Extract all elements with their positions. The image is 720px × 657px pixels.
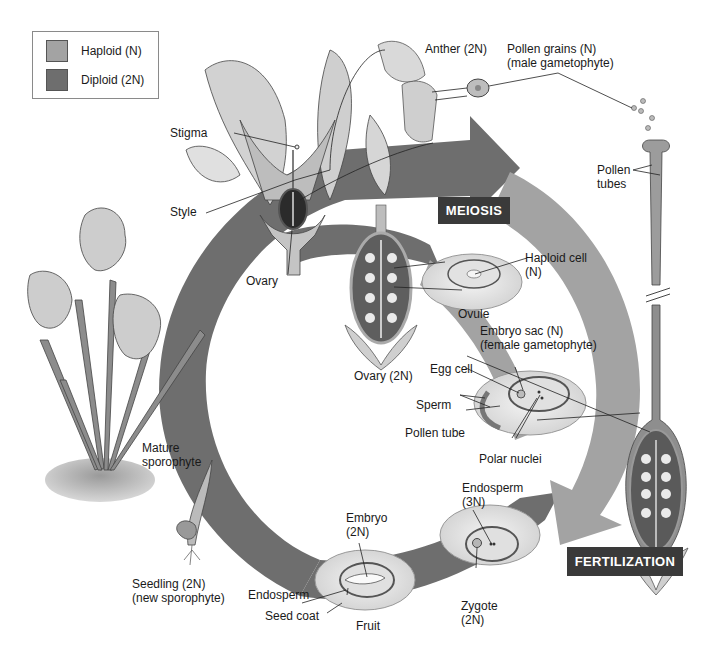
legend-item-haploid: Haploid (N) — [46, 40, 142, 62]
label-embryo-line2: (2N) — [346, 525, 387, 539]
label-embryo-sac: Embryo sac (N) (female gametophyte) — [480, 324, 597, 352]
legend-label-diploid: Diploid (2N) — [81, 73, 144, 87]
label-zygote: Zygote (2N) — [461, 599, 498, 627]
label-anther: Anther (2N) — [425, 42, 487, 56]
haploid-swatch — [46, 40, 68, 62]
label-seed-coat: Seed coat — [265, 609, 319, 623]
label-embryo-sac-line1: Embryo sac (N) — [480, 324, 597, 338]
label-mature-sporophyte-line1: Mature — [142, 441, 201, 455]
legend-label-haploid: Haploid (N) — [81, 44, 142, 58]
label-pollen-grains-line1: Pollen grains (N) — [507, 42, 614, 56]
label-endosperm-3n-line1: Endosperm — [462, 481, 523, 495]
diploid-swatch — [46, 69, 68, 91]
label-stigma: Stigma — [170, 126, 207, 140]
legend-item-diploid: Diploid (2N) — [46, 69, 144, 91]
label-haploid-cell-line1: Haploid cell — [525, 251, 587, 265]
label-zygote-line1: Zygote — [461, 599, 498, 613]
life-cycle-diagram: Haploid (N) Diploid (2N) MEIOSIS FERTILI… — [0, 0, 720, 657]
label-pollen-grains: Pollen grains (N) (male gametophyte) — [507, 42, 614, 70]
label-fruit: Fruit — [356, 619, 380, 633]
haploid-cycle-arrow — [420, 172, 640, 545]
label-endosperm: Endosperm — [248, 588, 309, 602]
label-ovule: Ovule — [458, 307, 489, 321]
legend: Haploid (N) Diploid (2N) — [32, 31, 159, 99]
label-embryo: Embryo (2N) — [346, 511, 387, 539]
label-polar-nuclei: Polar nuclei — [479, 452, 542, 466]
label-pollen-tubes-line2: tubes — [597, 177, 630, 191]
label-seedling-line1: Seedling (2N) — [132, 577, 225, 591]
label-seedling-line2: (new sporophyte) — [132, 591, 225, 605]
zygote-illustration — [440, 505, 540, 565]
label-mature-sporophyte: Mature sporophyte — [142, 441, 201, 469]
label-embryo-sac-line2: (female gametophyte) — [480, 338, 597, 352]
fertilization-stage-label: FERTILIZATION — [567, 547, 683, 576]
label-pollen-grains-line2: (male gametophyte) — [507, 56, 614, 70]
label-haploid-cell: Haploid cell (N) — [525, 251, 587, 279]
label-ovary-2n: Ovary (2N) — [354, 369, 413, 383]
label-egg-cell: Egg cell — [430, 362, 473, 376]
label-endosperm-3n-line2: (3N) — [462, 495, 523, 509]
label-pollen-tubes-line1: Pollen — [597, 163, 630, 177]
label-pollen-tubes: Pollen tubes — [597, 163, 630, 191]
ovule-illustration — [422, 254, 522, 310]
label-pollen-tube: Pollen tube — [405, 426, 465, 440]
label-endosperm-3n: Endosperm (3N) — [462, 481, 523, 509]
label-sperm: Sperm — [416, 398, 451, 412]
label-mature-sporophyte-line2: sporophyte — [142, 455, 201, 469]
label-style: Style — [170, 205, 197, 219]
label-ovary: Ovary — [246, 274, 278, 288]
embryo-sac-illustration — [474, 371, 586, 435]
meiosis-stage-label: MEIOSIS — [438, 197, 510, 224]
seed-illustration — [315, 550, 415, 610]
label-seedling: Seedling (2N) (new sporophyte) — [132, 577, 225, 605]
label-embryo-line1: Embryo — [346, 511, 387, 525]
label-haploid-cell-line2: (N) — [525, 265, 587, 279]
label-zygote-line2: (2N) — [461, 613, 498, 627]
